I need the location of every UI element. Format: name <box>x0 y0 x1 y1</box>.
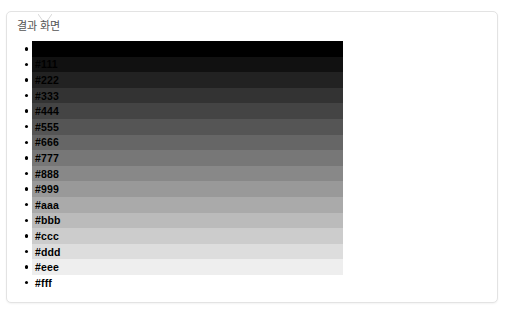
result-card: 결과 화면 #000#111#222#333#444#555#666#777#8… <box>6 11 498 303</box>
color-band <box>32 135 343 151</box>
color-band <box>32 57 343 73</box>
bullet-icon <box>25 63 28 66</box>
color-code-label: #666 <box>35 136 59 149</box>
color-band <box>32 72 343 88</box>
color-band <box>32 41 343 57</box>
color-code-label: #000 <box>35 42 59 55</box>
list-item[interactable]: #bbb <box>7 213 498 229</box>
list-item[interactable]: #111 <box>7 57 498 73</box>
color-code-label: #111 <box>35 58 58 71</box>
page-title: 결과 화면 <box>17 19 61 33</box>
bullet-icon <box>25 187 28 190</box>
color-code-label: #fff <box>35 276 52 289</box>
bullet-icon <box>25 47 28 50</box>
color-code-label: #bbb <box>35 214 61 227</box>
bullet-icon <box>25 281 28 284</box>
color-band <box>32 119 343 135</box>
color-code-label: #222 <box>35 73 59 86</box>
bullet-icon <box>25 172 28 175</box>
color-band <box>32 228 343 244</box>
color-band <box>32 150 343 166</box>
bullet-icon <box>25 156 28 159</box>
list-item[interactable]: #fff <box>7 275 498 291</box>
bullet-icon <box>25 219 28 222</box>
color-band <box>32 275 343 291</box>
list-item[interactable]: #999 <box>7 181 498 197</box>
bullet-icon <box>25 265 28 268</box>
color-band <box>32 197 343 213</box>
color-code-label: #444 <box>35 105 59 118</box>
list-item[interactable]: #666 <box>7 135 498 151</box>
bullet-icon <box>25 94 28 97</box>
color-band <box>32 166 343 182</box>
color-swatch-list: #000#111#222#333#444#555#666#777#888#999… <box>7 41 498 291</box>
list-item[interactable]: #ddd <box>7 244 498 260</box>
bullet-icon <box>25 234 28 237</box>
color-band <box>32 213 343 229</box>
color-band <box>32 88 343 104</box>
color-code-label: #777 <box>35 151 59 164</box>
bullet-icon <box>25 141 28 144</box>
bullet-icon <box>25 125 28 128</box>
color-band <box>32 259 343 275</box>
color-code-label: #555 <box>35 120 59 133</box>
color-code-label: #999 <box>35 183 59 196</box>
bullet-icon <box>25 250 28 253</box>
list-item[interactable]: #333 <box>7 88 498 104</box>
color-code-label: #333 <box>35 89 59 102</box>
list-item[interactable]: #ccc <box>7 228 498 244</box>
color-code-label: #ddd <box>35 245 61 258</box>
color-code-label: #ccc <box>35 229 59 242</box>
bullet-icon <box>25 109 28 112</box>
list-item[interactable]: #555 <box>7 119 498 135</box>
color-code-label: #aaa <box>35 198 59 211</box>
list-item[interactable]: #eee <box>7 259 498 275</box>
color-band <box>32 103 343 119</box>
bullet-icon <box>25 78 28 81</box>
color-code-label: #888 <box>35 167 59 180</box>
color-band <box>32 181 343 197</box>
list-item[interactable]: #222 <box>7 72 498 88</box>
color-code-label: #eee <box>35 261 59 274</box>
list-item[interactable]: #aaa <box>7 197 498 213</box>
list-item[interactable]: #000 <box>7 41 498 57</box>
color-band <box>32 244 343 260</box>
bullet-icon <box>25 203 28 206</box>
list-item[interactable]: #888 <box>7 166 498 182</box>
list-item[interactable]: #444 <box>7 103 498 119</box>
list-item[interactable]: #777 <box>7 150 498 166</box>
screenshot-root: 결과 화면 #000#111#222#333#444#555#666#777#8… <box>0 0 506 314</box>
